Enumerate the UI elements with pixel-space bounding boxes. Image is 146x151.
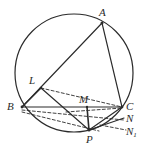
segment-P-N: [89, 118, 124, 130]
point-label-M: M: [79, 94, 88, 105]
vertex-dot-M: [86, 106, 88, 108]
vertex-dot-P: [88, 129, 91, 132]
vertex-dot-A: [101, 22, 104, 25]
point-label-N: N: [126, 113, 133, 124]
point-label-subscript: 1: [133, 131, 137, 139]
dashed-segments-group: [22, 88, 126, 131]
point-label-C: C: [126, 101, 133, 112]
point-label-N1: N1: [126, 126, 137, 139]
geometry-canvas: [0, 0, 146, 151]
solid-segments-group: [22, 23, 124, 130]
segment-L-B: [22, 88, 41, 107]
point-label-A: A: [99, 7, 106, 18]
point-label-L: L: [29, 75, 35, 86]
segment-P-N1: [100, 125, 126, 130]
point-label-B: B: [7, 101, 14, 112]
vertex-dot-C: [121, 106, 124, 109]
geometry-figure: A B C L M P N N1: [0, 0, 146, 151]
point-label-P: P: [86, 134, 93, 145]
vertex-dot-L: [40, 87, 43, 90]
segment-M-C: [66, 108, 122, 112]
vertex-dot-B: [21, 106, 24, 109]
